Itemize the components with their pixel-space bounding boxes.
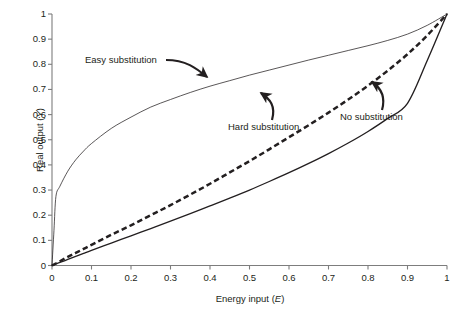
y-tick-label: 0.3 bbox=[14, 185, 46, 195]
y-tick-label: 1 bbox=[14, 9, 46, 19]
chart-plot-svg bbox=[0, 0, 465, 312]
y-tick-label: 0.2 bbox=[14, 210, 46, 220]
y-tick-label: 0 bbox=[14, 261, 46, 271]
x-tick-label: 0.9 bbox=[401, 273, 414, 283]
x-axis-title-close: ) bbox=[281, 293, 284, 304]
y-tick-label: 0.7 bbox=[14, 85, 46, 95]
x-tick-label: 0 bbox=[49, 273, 54, 283]
x-tick-label: 0.7 bbox=[322, 273, 335, 283]
x-tick-label: 0.2 bbox=[124, 273, 137, 283]
annotation-easy-substitution: Easy substitution bbox=[85, 55, 157, 65]
y-axis-title-text: Real output ( bbox=[34, 118, 45, 172]
annotation-hard-substitution: Hard substitution bbox=[228, 122, 299, 132]
y-tick-label: 0.1 bbox=[14, 236, 46, 246]
chart-series-group bbox=[52, 14, 447, 266]
chart-figure: 00.10.20.30.40.50.60.70.80.91 00.10.20.3… bbox=[0, 0, 465, 312]
x-tick-label: 0.6 bbox=[282, 273, 295, 283]
axis-lines bbox=[52, 14, 447, 266]
series-line-easy-substitution bbox=[52, 14, 447, 266]
x-tick-label: 0.5 bbox=[243, 273, 256, 283]
y-axis-title-variable: Y bbox=[34, 111, 45, 117]
y-tick-label: 0.8 bbox=[14, 60, 46, 70]
x-tick-label: 1 bbox=[444, 273, 449, 283]
arrow-easy-substitution bbox=[166, 60, 207, 77]
x-tick-label: 0.8 bbox=[361, 273, 374, 283]
x-tick-label: 0.4 bbox=[203, 273, 216, 283]
x-tick-label: 0.3 bbox=[164, 273, 177, 283]
arrow-no-substitution bbox=[372, 82, 383, 110]
series-line-hard-substitution bbox=[52, 14, 447, 266]
x-axis-title: Energy input (E) bbox=[216, 294, 285, 304]
x-axis-title-text: Energy input ( bbox=[216, 293, 275, 304]
y-axis-ticks bbox=[48, 14, 52, 266]
x-tick-label: 0.1 bbox=[85, 273, 98, 283]
annotation-no-substitution: No substitution bbox=[340, 112, 403, 122]
arrow-hard-substitution bbox=[261, 93, 273, 120]
y-axis-title-close: ) bbox=[34, 108, 45, 111]
series-line-no-substitution bbox=[52, 14, 447, 266]
y-tick-label: 0.9 bbox=[14, 34, 46, 44]
y-axis-title: Real output (Y) bbox=[35, 108, 45, 172]
x-axis-ticks bbox=[52, 266, 447, 270]
